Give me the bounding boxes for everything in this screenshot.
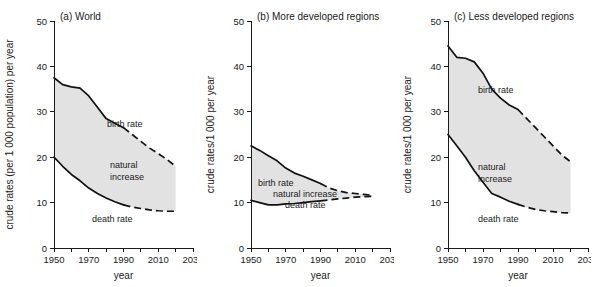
natural-increase-label-line2: increase — [478, 174, 512, 184]
panel-title: (a) World — [60, 11, 101, 22]
y-axis-tick-label: 40 — [36, 61, 47, 72]
death-rate-label: death rate — [478, 214, 519, 224]
birth-rate-label: birth rate — [107, 119, 143, 129]
x-axis-tick-label: 1990 — [113, 254, 134, 265]
y-axis-tick-label: 0 — [42, 243, 47, 254]
x-axis-tick-label: 1950 — [43, 254, 64, 265]
natural-increase-label: natural — [110, 160, 138, 170]
birth-rate-label: birth rate — [258, 178, 294, 188]
y-axis-title: crude rates/1 000 per year — [402, 75, 413, 193]
y-axis-tick-label: 10 — [36, 197, 47, 208]
chart-svg: 0102030405019501970199020102030yearcrude… — [394, 0, 591, 287]
x-axis-tick-label: 1970 — [275, 254, 296, 265]
panel-title: (c) Less developed regions — [454, 11, 574, 22]
natural-increase-area — [54, 78, 176, 211]
y-axis-tick-label: 20 — [36, 152, 47, 163]
y-axis-tick-label: 20 — [233, 152, 244, 163]
natural-increase-label: natural — [478, 162, 506, 172]
y-axis-tick-label: 30 — [233, 106, 244, 117]
natural-increase-label: natural increase — [273, 189, 337, 199]
x-axis-tick-label: 2030 — [379, 254, 394, 265]
natural-increase-area — [448, 46, 571, 213]
x-axis-tick-label: 2010 — [148, 254, 169, 265]
chart-panel-less-developed: 0102030405019501970199020102030yearcrude… — [394, 0, 592, 287]
natural-increase-label-line2: increase — [110, 172, 144, 182]
chart-svg: 0102030405019501970199020102030yearcrude… — [197, 0, 394, 287]
y-axis-tick-label: 50 — [233, 16, 244, 27]
x-axis-tick-label: 1950 — [437, 254, 458, 265]
chart-svg: 0102030405019501970199020102030yearcrude… — [0, 0, 197, 287]
y-axis-title: crude rates/1 000 per year — [205, 75, 216, 193]
x-axis-title: year — [508, 270, 528, 281]
x-axis-tick-label: 2030 — [577, 254, 591, 265]
x-axis-title: year — [311, 270, 331, 281]
birth-rate-label: birth rate — [478, 85, 514, 95]
death-rate-label: death rate — [285, 200, 326, 210]
x-axis-tick-label: 1950 — [240, 254, 261, 265]
y-axis-tick-label: 40 — [430, 61, 441, 72]
death-rate-label: death rate — [92, 214, 133, 224]
y-axis-tick-label: 50 — [430, 16, 441, 27]
x-axis-tick-label: 2010 — [542, 254, 563, 265]
y-axis-tick-label: 40 — [233, 61, 244, 72]
y-axis-tick-label: 0 — [239, 243, 244, 254]
x-axis-tick-label: 1990 — [310, 254, 331, 265]
panel-title: (b) More developed regions — [257, 11, 379, 22]
figure-crude-rates: 0102030405019501970199020102030yearcrude… — [0, 0, 592, 287]
chart-panel-world: 0102030405019501970199020102030yearcrude… — [0, 0, 197, 287]
x-axis-tick-label: 1970 — [78, 254, 99, 265]
x-axis-title: year — [114, 270, 134, 281]
y-axis-tick-label: 20 — [430, 152, 441, 163]
y-axis-tick-label: 10 — [430, 197, 441, 208]
chart-panel-more-developed: 0102030405019501970199020102030yearcrude… — [197, 0, 394, 287]
y-axis-tick-label: 10 — [233, 197, 244, 208]
y-axis-tick-label: 0 — [436, 243, 441, 254]
x-axis-tick-label: 1970 — [472, 254, 493, 265]
x-axis-tick-label: 2030 — [182, 254, 197, 265]
y-axis-tick-label: 30 — [36, 106, 47, 117]
y-axis-tick-label: 50 — [36, 16, 47, 27]
x-axis-tick-label: 2010 — [345, 254, 366, 265]
y-axis-title: crude rates (per 1 000 population) per y… — [4, 39, 15, 230]
x-axis-tick-label: 1990 — [507, 254, 528, 265]
y-axis-tick-label: 30 — [430, 106, 441, 117]
